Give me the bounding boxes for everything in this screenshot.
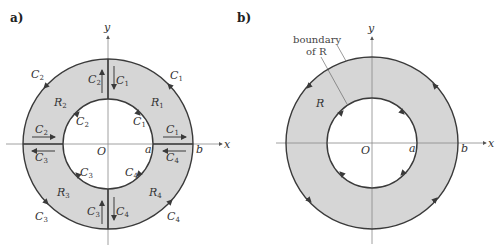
- b-label: b: [196, 143, 203, 156]
- svg-text:C4: C4: [167, 210, 180, 224]
- svg-text:C2: C2: [31, 68, 44, 82]
- boundary-annotation-of: of R: [306, 46, 327, 57]
- svg-text:C1: C1: [170, 69, 183, 83]
- origin-label: O: [361, 144, 370, 157]
- x-label: x: [224, 138, 231, 151]
- a-label: a: [409, 142, 416, 155]
- svg-text:C3: C3: [80, 166, 93, 180]
- boundary-annotation: boundary: [293, 34, 341, 45]
- y-label: y: [103, 21, 111, 34]
- leader-line: [337, 45, 346, 61]
- panel-b: b) boundary of R R x y O a b: [237, 11, 495, 244]
- svg-text:C2: C2: [76, 115, 89, 129]
- svg-text:C3: C3: [35, 210, 48, 224]
- x-label: x: [488, 137, 495, 150]
- panel-a: a) x y O a b: [6, 11, 231, 245]
- b-label: b: [461, 142, 468, 155]
- panel-a-label: a): [10, 11, 23, 25]
- panel-b-label: b): [237, 11, 251, 25]
- svg-text:C4: C4: [125, 166, 138, 180]
- y-label: y: [367, 22, 375, 35]
- annulus-figure: a) x y O a b: [0, 0, 504, 248]
- a-label: a: [145, 143, 152, 156]
- origin-label: O: [97, 145, 106, 158]
- region-label: R: [315, 97, 324, 110]
